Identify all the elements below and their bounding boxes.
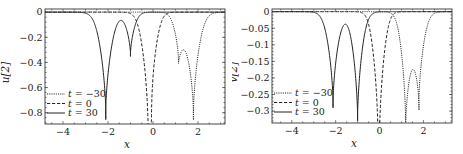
- chart-left-u2: −4−2020−0.2−0.4−0.6−0.8xu[2]t = −30t = 0…: [0, 0, 232, 154]
- y-tick-label: −0.2: [19, 32, 42, 43]
- x-tick-label: −2: [101, 126, 115, 137]
- chart-right-v2: −4−2020−0.05−0.1−0.15−0.2−0.25−0.3xv[2]t…: [232, 0, 463, 154]
- y-tick-label: 0: [263, 6, 269, 17]
- x-tick-label: 2: [195, 126, 201, 137]
- y-tick-label: −0.05: [240, 23, 269, 34]
- legend-label: t = 30: [68, 107, 98, 118]
- y-tick-label: −0.15: [240, 56, 269, 67]
- x-axis-label: x: [351, 137, 357, 149]
- y-axis-label: u[2]: [0, 61, 11, 84]
- x-tick-label: −4: [285, 125, 299, 136]
- legend-label: t = 30: [295, 106, 325, 117]
- legend: t = −30t = 0t = 30: [47, 88, 106, 118]
- x-tick-label: 2: [420, 125, 426, 136]
- y-tick-label: −0.8: [19, 107, 42, 118]
- figure: −4−2020−0.2−0.4−0.6−0.8xu[2]t = −30t = 0…: [0, 0, 463, 154]
- x-tick-label: 0: [150, 126, 156, 137]
- legend: t = −30t = 0t = 30: [274, 87, 333, 117]
- y-tick-label: −0.1: [246, 39, 269, 50]
- x-tick-label: −4: [56, 126, 70, 137]
- plot-area: [38, 12, 232, 137]
- series-line-dashed: [38, 12, 232, 137]
- y-axis-label: v[2]: [232, 61, 239, 83]
- x-tick-label: 0: [377, 125, 383, 136]
- y-tick-label: −0.2: [246, 72, 269, 83]
- x-tick-label: −2: [329, 125, 343, 136]
- x-axis-label: x: [124, 138, 130, 150]
- y-tick-label: −0.6: [19, 82, 42, 93]
- y-tick-label: −0.4: [19, 57, 42, 68]
- y-tick-label: −0.3: [246, 105, 269, 116]
- y-tick-label: 0: [36, 6, 42, 17]
- y-tick-label: −0.25: [240, 89, 269, 100]
